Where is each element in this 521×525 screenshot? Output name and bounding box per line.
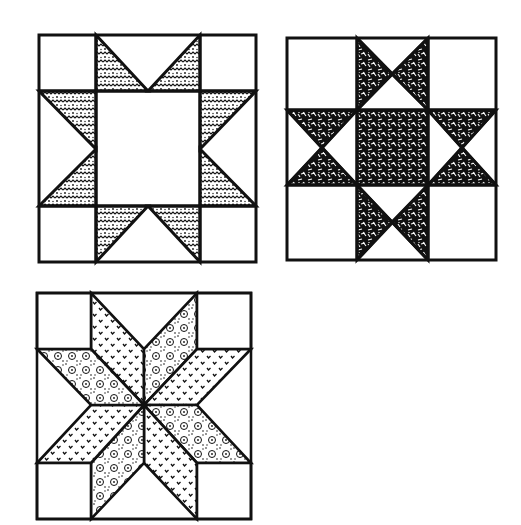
star-point	[200, 91, 256, 149]
star-point	[96, 35, 148, 91]
star-point	[148, 35, 200, 91]
star-point	[96, 206, 148, 262]
star-point	[39, 149, 96, 206]
sawtooth-star-block	[39, 35, 257, 263]
center-square	[357, 110, 428, 185]
star-point	[200, 149, 256, 206]
star-point	[39, 91, 96, 149]
ohio-star-block	[287, 38, 498, 262]
star-point	[148, 206, 200, 262]
eight-point-star-block	[37, 293, 253, 521]
